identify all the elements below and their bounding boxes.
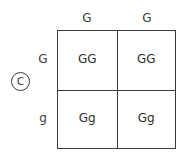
circled-label-marker: C — [11, 72, 30, 91]
punnett-square-figure: C G G G g GG GG Gg Gg — [0, 0, 184, 161]
punnett-grid: GG GG Gg Gg — [57, 30, 176, 149]
circled-label-letter: C — [17, 77, 24, 87]
punnett-cell-r0c0: GG — [58, 31, 117, 90]
column-header-0: G — [57, 8, 117, 28]
punnett-cell-r0c1: GG — [117, 31, 176, 90]
punnett-cell-r1c0: Gg — [58, 90, 117, 149]
row-header-1: g — [33, 108, 53, 128]
punnett-cell-r1c1: Gg — [117, 90, 176, 149]
row-header-0: G — [33, 49, 53, 69]
column-header-1: G — [117, 8, 177, 28]
